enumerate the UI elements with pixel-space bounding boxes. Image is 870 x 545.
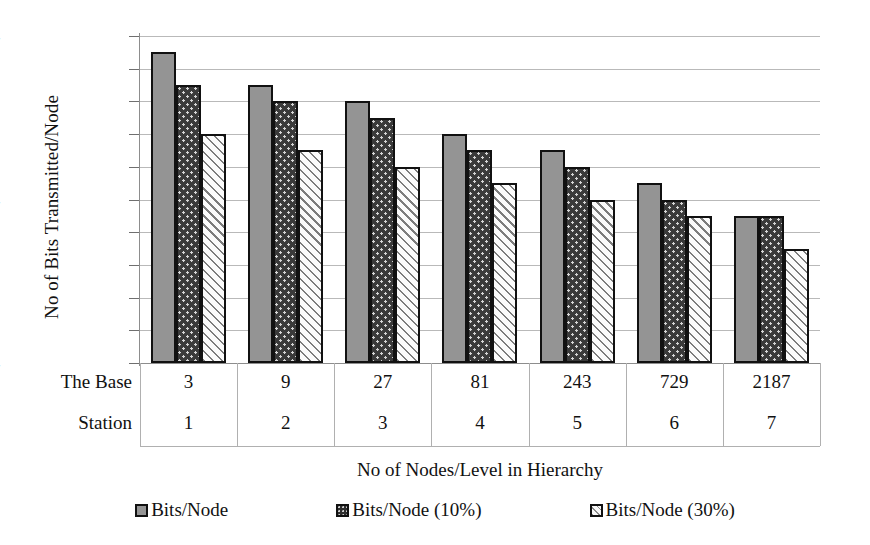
- y-axis-line: [139, 33, 140, 366]
- legend-swatch-icon: [135, 504, 148, 517]
- bar-group: [334, 36, 431, 363]
- x-axis-title: No of Nodes/Level in Hierarchy: [140, 459, 820, 481]
- base-station-row-header-line1: The Base: [8, 371, 132, 393]
- bar[interactable]: [248, 85, 273, 363]
- x-axis-category-label: 27: [334, 371, 431, 393]
- bar[interactable]: [637, 183, 662, 363]
- category-separator: [820, 363, 821, 446]
- legend-swatch-icon: [590, 504, 603, 517]
- x-axis-level-label: 3: [334, 412, 431, 434]
- bar[interactable]: [784, 249, 809, 363]
- bar[interactable]: [540, 150, 565, 363]
- x-axis-category-label: 729: [626, 371, 723, 393]
- legend-item-bits-node-10[interactable]: Bits/Node (10%): [336, 499, 481, 521]
- bar[interactable]: [151, 52, 176, 363]
- bar[interactable]: [273, 101, 298, 363]
- x-axis-category-label: 243: [529, 371, 626, 393]
- bar-group: [140, 36, 237, 363]
- x-axis-category-label: 3: [140, 371, 237, 393]
- bar[interactable]: [345, 101, 370, 363]
- plot-area: [140, 36, 820, 363]
- legend-item-bits-node[interactable]: Bits/Node: [135, 499, 228, 521]
- bar[interactable]: [467, 150, 492, 363]
- gridline: [140, 363, 820, 364]
- bar[interactable]: [492, 183, 517, 363]
- bar[interactable]: [734, 216, 759, 363]
- category-band-bottom-line: [140, 446, 820, 447]
- bar-group: [723, 36, 820, 363]
- x-axis-category-label: 2187: [723, 371, 820, 393]
- x-axis-level-label: 4: [431, 412, 528, 434]
- bar[interactable]: [201, 134, 226, 363]
- bar[interactable]: [298, 150, 323, 363]
- legend-swatch-icon: [336, 504, 349, 517]
- x-axis-category-label: 9: [237, 371, 334, 393]
- x-axis-level-label: 2: [237, 412, 334, 434]
- x-axis-level-label: 5: [529, 412, 626, 434]
- bar[interactable]: [176, 85, 201, 363]
- x-axis-level-label: 7: [723, 412, 820, 434]
- legend-label: Bits/Node (10%): [352, 499, 481, 521]
- x-axis-category-label: 81: [431, 371, 528, 393]
- legend-item-bits-node-30[interactable]: Bits/Node (30%): [590, 499, 735, 521]
- y-axis-title: No of Bits Transmitted/Node: [41, 37, 63, 377]
- bar-group: [431, 36, 528, 363]
- bar[interactable]: [442, 134, 467, 363]
- bar[interactable]: [662, 200, 687, 364]
- bar[interactable]: [687, 216, 712, 363]
- bar[interactable]: [370, 118, 395, 363]
- bar[interactable]: [759, 216, 784, 363]
- bar-group: [237, 36, 334, 363]
- bar[interactable]: [395, 167, 420, 363]
- chart-legend: Bits/Node Bits/Node (10%) Bits/Node (30%…: [0, 499, 870, 521]
- bar[interactable]: [565, 167, 590, 363]
- bar-group: [529, 36, 626, 363]
- bar-group: [626, 36, 723, 363]
- legend-label: Bits/Node (30%): [606, 499, 735, 521]
- bar[interactable]: [590, 200, 615, 364]
- x-axis-level-label: 6: [626, 412, 723, 434]
- legend-label: Bits/Node: [151, 499, 228, 521]
- bars-layer: [140, 36, 820, 363]
- base-station-row-header-line2: Station: [8, 412, 132, 434]
- x-axis-level-label: 1: [140, 412, 237, 434]
